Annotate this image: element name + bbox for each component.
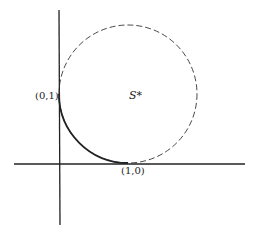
label-region-s-star: S* bbox=[129, 89, 142, 102]
label-point-0-1: (0,1) bbox=[35, 90, 59, 101]
solid-arc bbox=[59, 94, 128, 163]
y-axis bbox=[59, 10, 60, 225]
diagram-canvas bbox=[0, 0, 253, 233]
label-point-1-0: (1,0) bbox=[121, 165, 145, 176]
